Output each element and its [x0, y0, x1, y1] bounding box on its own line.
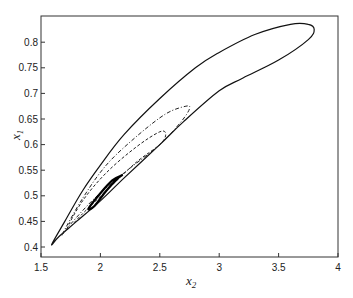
y-tick-label: 0.8 [24, 37, 38, 48]
y-tick-label: 0.75 [19, 62, 39, 73]
y-tick-label: 0.45 [19, 216, 39, 227]
x-tick-label: 2 [98, 262, 104, 273]
outer-loop [52, 23, 315, 245]
plot-frame [41, 16, 338, 257]
y-tick-label: 0.5 [24, 190, 38, 201]
x-tick-label: 3 [216, 262, 222, 273]
y-tick-label: 0.65 [19, 114, 39, 125]
phase-portrait-chart: 1.522.533.54 0.40.450.50.550.60.650.70.7… [0, 0, 353, 298]
y-tick-label: 0.7 [24, 88, 38, 99]
x-axis-ticks: 1.522.533.54 [34, 253, 341, 273]
y-tick-label: 0.55 [19, 165, 39, 176]
x-tick-label: 2.5 [153, 262, 167, 273]
x-axis-label: x2 [185, 273, 197, 290]
x-tick-label: 3.5 [272, 262, 286, 273]
y-tick-label: 0.6 [24, 139, 38, 150]
inner-loop [88, 175, 122, 209]
svg-text:x1: x1 [8, 130, 25, 141]
x-tick-label: 4 [335, 262, 341, 273]
y-tick-label: 0.4 [24, 242, 38, 253]
series-group [52, 23, 315, 245]
dashdot-loop [62, 106, 190, 236]
x-tick-label: 1.5 [34, 262, 48, 273]
y-axis-label: x1 [8, 130, 25, 141]
